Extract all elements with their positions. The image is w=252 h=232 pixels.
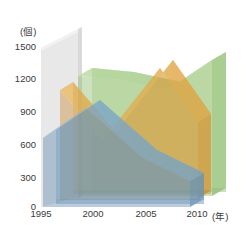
y-tick-300: 300: [2, 172, 36, 183]
x-tick-2010: 2010: [178, 208, 216, 219]
x-tick-2000: 2000: [74, 208, 112, 219]
y-tick-1200: 1200: [2, 73, 36, 84]
y-tick-900: 900: [2, 106, 36, 117]
y-tick-600: 600: [2, 139, 36, 150]
y-tick-1500: 1500: [2, 41, 36, 52]
x-axis-unit-label: (年): [212, 209, 228, 223]
x-tick-1995: 1995: [22, 208, 60, 219]
chart-area-3d: (個) 1500 1200 900 600 300 0 1995 2000 20…: [0, 0, 252, 232]
x-tick-2005: 2005: [127, 208, 165, 219]
y-axis-unit-label: (個): [20, 24, 36, 38]
chart-plot-svg: [0, 0, 252, 232]
